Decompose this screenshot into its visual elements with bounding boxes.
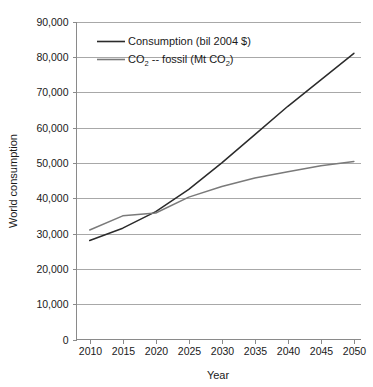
legend-consumption-label: Consumption (bil 2004 $) [128, 35, 251, 47]
x-axis-title: Year [207, 369, 230, 381]
x-tick-label-2010: 2010 [79, 345, 103, 357]
x-tick-label-2025: 2025 [178, 345, 202, 357]
x-tick-label-2045: 2045 [310, 345, 334, 357]
x-tick-label-2015: 2015 [112, 345, 136, 357]
y-tick-label-70000: 70,000 [36, 86, 68, 98]
chart-container: 010,00020,00030,00040,00050,00060,00070,… [0, 0, 373, 387]
y-tick-label-20000: 20,000 [36, 263, 68, 275]
y-tick-label-50000: 50,000 [36, 157, 68, 169]
x-axis-tick-labels-group: 201020152020202520302035204020452050 [79, 345, 367, 357]
x-tick-label-2020: 2020 [145, 345, 169, 357]
x-tick-label-2035: 2035 [244, 345, 268, 357]
y-tick-label-80000: 80,000 [36, 51, 68, 63]
x-tick-label-2050: 2050 [343, 345, 367, 357]
y-tick-label-40000: 40,000 [36, 192, 68, 204]
x-tick-label-2030: 2030 [211, 345, 235, 357]
y-tick-label-10000: 10,000 [36, 298, 68, 310]
y-axis-title: World consumption [7, 134, 19, 228]
y-tick-label-60000: 60,000 [36, 122, 68, 134]
y-tick-label-0: 0 [63, 334, 69, 346]
line-chart: 010,00020,00030,00040,00050,00060,00070,… [0, 0, 373, 387]
x-tick-label-2040: 2040 [277, 345, 301, 357]
y-tick-label-30000: 30,000 [36, 228, 68, 240]
y-tick-label-90000: 90,000 [36, 16, 68, 28]
